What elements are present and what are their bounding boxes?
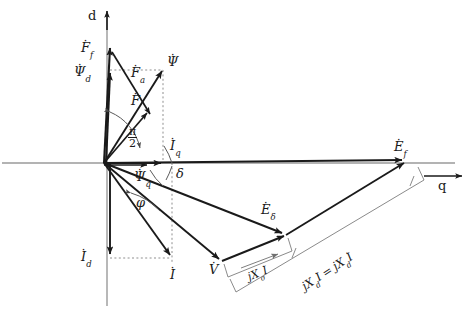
d-axis-label: d (88, 9, 96, 22)
phasor-label-Psi-d: ·Ψd (74, 65, 91, 81)
arc-delta-lower (166, 166, 172, 180)
E-f-subscript: f (404, 149, 407, 159)
Psi-q-subscript: q (145, 179, 151, 189)
phasor-E-delta (104, 163, 282, 233)
Psi-d-subscript: d (85, 74, 91, 84)
phasor-label-I-d: ·Id (81, 250, 92, 266)
phasor-label-I: ·I (170, 268, 175, 284)
phasor-label-E-f: ·Ef (394, 140, 407, 156)
I-q-subscript: q (175, 148, 181, 158)
phasor-label-V: ·V (209, 263, 218, 279)
phasor-diagram-figure: d q π 2 δ φ ·Ff ·Ψd ·Fa ·F ·Ψ ·Iq ·Ψq ·I… (0, 0, 471, 318)
pi-numerator: π (128, 126, 137, 137)
phasor-jXad-I (286, 163, 404, 235)
phasor-F (104, 113, 147, 163)
angle-pi-over-2: π 2 (128, 126, 137, 149)
diagram-canvas (0, 0, 471, 318)
pi-denominator: 2 (128, 137, 137, 149)
phasor-label-Psi-q: ·Ψq (134, 170, 151, 186)
phasor-label-F-a: ·Fa (131, 66, 145, 82)
angle-phi-label: φ (136, 196, 145, 209)
phasor-label-E-delta: ·Eδ (261, 203, 276, 219)
F-f-subscript: f (90, 50, 93, 60)
axis-lines (2, 11, 462, 306)
I-d-subscript: d (86, 259, 92, 269)
phasor-jXsigma-I (222, 236, 284, 261)
phasor-label-Psi: ·Ψ (167, 55, 178, 71)
angle-delta-label: δ (176, 167, 184, 180)
phasor-label-F-f: ·Ff (81, 41, 93, 57)
F-a-subscript: a (140, 75, 145, 85)
phasor-label-I-q: ·Iq (170, 139, 181, 155)
phasor-label-F: ·F (131, 94, 140, 110)
phasor-arrows (104, 48, 404, 261)
E-delta-subscript: δ (271, 212, 276, 222)
q-axis-label: q (438, 179, 446, 192)
